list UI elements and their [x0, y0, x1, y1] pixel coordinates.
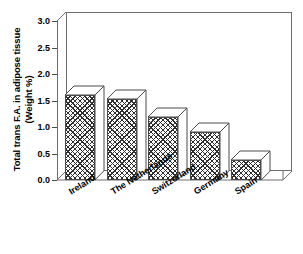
- y-axis-tick: [52, 180, 57, 181]
- y-axis-tick-label: 1.0: [37, 122, 50, 132]
- y-axis-tick: [52, 154, 57, 155]
- bar: [107, 99, 137, 180]
- y-axis-tick-label: 0.0: [37, 175, 50, 185]
- y-axis-tick: [52, 21, 57, 22]
- y-axis-tick-label: 2.0: [37, 69, 50, 79]
- y-axis-tick: [52, 127, 57, 128]
- bar: [65, 95, 95, 180]
- bar-3d-faces: [65, 86, 106, 182]
- y-axis-tick: [52, 48, 57, 49]
- chart-container: Total trans F.A. in adipose tissue (Weig…: [0, 0, 303, 254]
- y-axis-tick: [52, 101, 57, 102]
- y-axis-tick-label: 2.5: [37, 43, 50, 53]
- bar: [231, 160, 261, 180]
- y-axis-title-line-2: (Weight %): [22, 14, 34, 186]
- y-axis-tick-label: 0.5: [37, 149, 50, 159]
- y-axis-title: Total trans F.A. in adipose tissue (Weig…: [11, 14, 34, 186]
- plot-area: 0.00.51.01.52.02.53.0: [57, 12, 293, 180]
- y-axis-title-line-1: Total trans F.A. in adipose tissue: [11, 14, 23, 186]
- y-axis-tick-label: 3.0: [37, 16, 50, 26]
- y-axis-tick-label: 1.5: [37, 96, 50, 106]
- y-axis-tick: [52, 74, 57, 75]
